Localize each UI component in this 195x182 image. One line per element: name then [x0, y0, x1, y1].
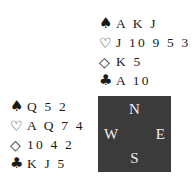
west-hearts-cards: A Q 7 4 [27, 118, 85, 134]
north-diamonds-row: ◇ K 5 [99, 52, 195, 71]
west-hearts-row: ♡ A Q 7 4 [10, 116, 85, 135]
west-clubs-cards: K J 5 [27, 156, 67, 172]
heart-icon: ♡ [10, 119, 27, 133]
compass-north-label: N [129, 102, 140, 117]
spade-icon: ♠ [10, 99, 27, 114]
west-diamonds-row: ◇ 10 4 2 [10, 135, 85, 154]
club-icon: ♣ [10, 156, 27, 171]
north-hearts-row: ♡ J 10 9 5 3 2 [99, 33, 195, 52]
heart-icon: ♡ [99, 36, 116, 50]
west-diamonds-cards: 10 4 2 [27, 137, 74, 153]
west-clubs-row: ♣ K J 5 [10, 154, 85, 173]
north-hand: ♠ A K J ♡ J 10 9 5 3 2 ◇ K 5 ♣ A 10 [99, 14, 195, 90]
spade-icon: ♠ [99, 16, 116, 31]
compass-south-label: S [130, 151, 138, 166]
north-diamonds-cards: K 5 [116, 54, 142, 70]
north-spades-cards: A K J [116, 16, 158, 32]
west-hand: ♠ Q 5 2 ♡ A Q 7 4 ◇ 10 4 2 ♣ K J 5 [10, 97, 85, 173]
club-icon: ♣ [99, 73, 116, 88]
west-spades-cards: Q 5 2 [27, 99, 68, 115]
compass-east-label: E [156, 127, 165, 142]
diamond-icon: ◇ [99, 55, 116, 69]
compass-table: N W E S [98, 96, 171, 172]
north-clubs-cards: A 10 [116, 73, 151, 89]
north-hearts-cards: J 10 9 5 3 2 [116, 35, 195, 51]
compass-west-label: W [104, 127, 118, 142]
north-clubs-row: ♣ A 10 [99, 71, 195, 90]
north-spades-row: ♠ A K J [99, 14, 195, 33]
west-spades-row: ♠ Q 5 2 [10, 97, 85, 116]
diamond-icon: ◇ [10, 138, 27, 152]
